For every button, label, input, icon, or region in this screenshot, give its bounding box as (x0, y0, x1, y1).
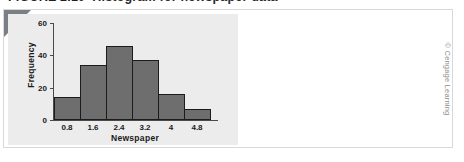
y-tick-mark-0 (50, 120, 54, 121)
histogram-bar (80, 65, 107, 120)
x-axis-title: Newspaper (54, 133, 216, 143)
y-tick-label-60: 60 (31, 19, 47, 28)
figure-caption: FIGURE 2.10Histogram for newspaper data (8, 0, 278, 5)
histogram-bar (132, 60, 159, 120)
histogram-plot: Frequency 60 40 20 0 0.8 1.6 2.4 3.2 4 (8, 14, 238, 145)
y-axis-tick-labels: 60 40 20 0 (31, 14, 47, 145)
y-tick-label-40: 40 (31, 51, 47, 60)
histogram-bars (54, 23, 216, 120)
histogram-bar (158, 94, 185, 120)
histogram-bar (106, 46, 133, 120)
x-axis-line (53, 120, 218, 121)
histogram-bar (54, 97, 81, 120)
figure-caption-number: FIGURE 2.10 (8, 0, 85, 4)
figure-caption-text: Histogram for newspaper data (92, 0, 278, 4)
x-tick-label-5: 4.8 (182, 123, 212, 132)
y-tick-label-20: 20 (31, 83, 47, 92)
histogram-bar (184, 109, 211, 120)
figure-panel: Frequency 60 40 20 0 0.8 1.6 2.4 3.2 4 (3, 9, 453, 148)
copyright-credit: © Cengage Learning (443, 43, 452, 139)
y-tick-label-0: 0 (31, 116, 47, 125)
